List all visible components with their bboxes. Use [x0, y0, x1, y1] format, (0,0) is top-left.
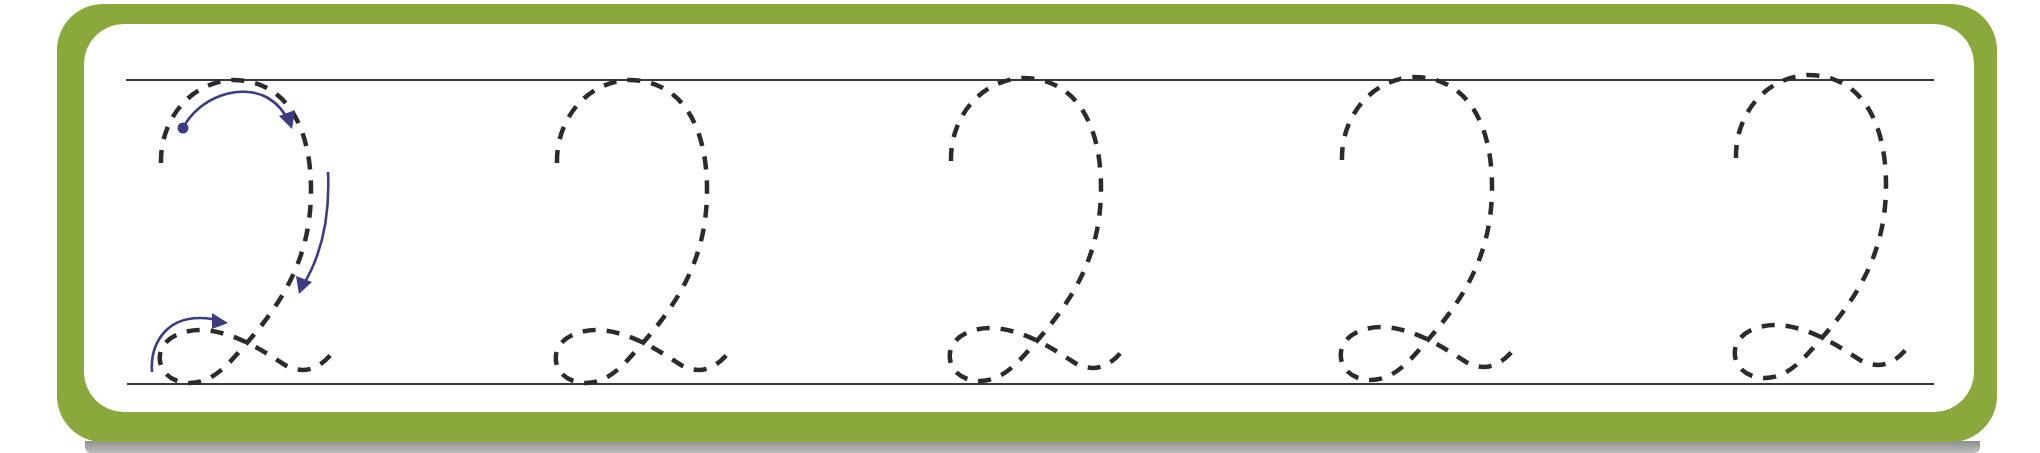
down-arrow-head-icon — [296, 276, 312, 294]
tracing-glyph-2[interactable] — [556, 80, 732, 383]
tracing-glyph-5[interactable] — [1735, 75, 1911, 378]
tracing-glyph-4[interactable] — [1341, 77, 1517, 380]
tracing-glyph-3[interactable] — [950, 78, 1126, 381]
loop-arrow-head-icon — [212, 313, 228, 329]
arc-arrow-head-icon — [279, 110, 295, 129]
arc-arrow-icon — [183, 92, 289, 128]
